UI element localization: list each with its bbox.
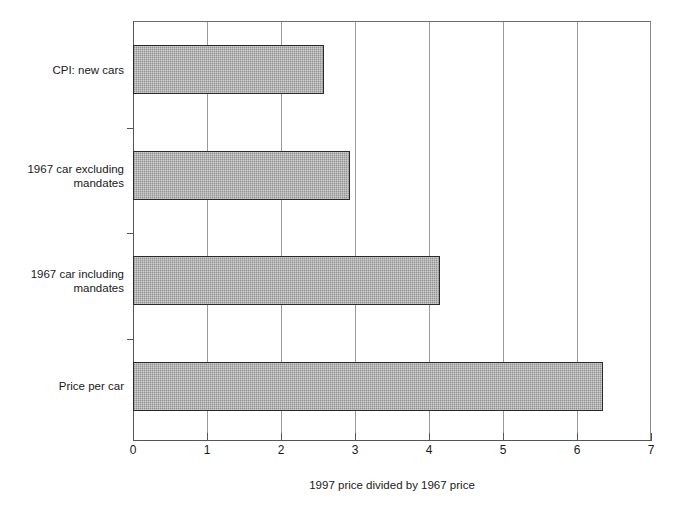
x-tick-label-5: 5 [483, 443, 523, 457]
bar-chart: CPI: new cars 1967 car excluding mandate… [0, 0, 684, 515]
x-tick-0 [133, 433, 134, 441]
x-tick-5 [503, 433, 504, 441]
value-axis-line [133, 440, 652, 441]
x-tick-label-6: 6 [557, 443, 597, 457]
x-tick-label-4: 4 [409, 443, 449, 457]
x-tick-label-0: 0 [113, 443, 153, 457]
bar-cpi-new-cars [133, 45, 324, 94]
x-tick-label-2: 2 [261, 443, 301, 457]
x-tick-label-3: 3 [335, 443, 375, 457]
x-tick-6 [577, 433, 578, 441]
bar-1967-car-excluding-mandates [133, 151, 350, 200]
bar-price-per-car [133, 362, 603, 411]
category-label-1967-car-excluding-mandates: 1967 car excluding mandates [0, 162, 124, 190]
x-tick-3 [355, 433, 356, 441]
category-tick-2 [127, 233, 134, 234]
category-tick-1 [127, 128, 134, 129]
category-label-price-per-car: Price per car [0, 379, 124, 393]
category-label-cpi-new-cars: CPI: new cars [0, 63, 124, 77]
category-label-1967-car-including-mandates: 1967 car including mandates [0, 267, 124, 295]
x-tick-label-7: 7 [631, 443, 671, 457]
category-tick-3 [127, 339, 134, 340]
x-tick-2 [281, 433, 282, 441]
x-tick-4 [429, 433, 430, 441]
x-tick-label-1: 1 [187, 443, 227, 457]
bar-1967-car-including-mandates [133, 256, 440, 305]
x-tick-1 [207, 433, 208, 441]
x-axis-title: 1997 price divided by 1967 price [133, 479, 651, 491]
x-tick-7 [651, 433, 652, 441]
